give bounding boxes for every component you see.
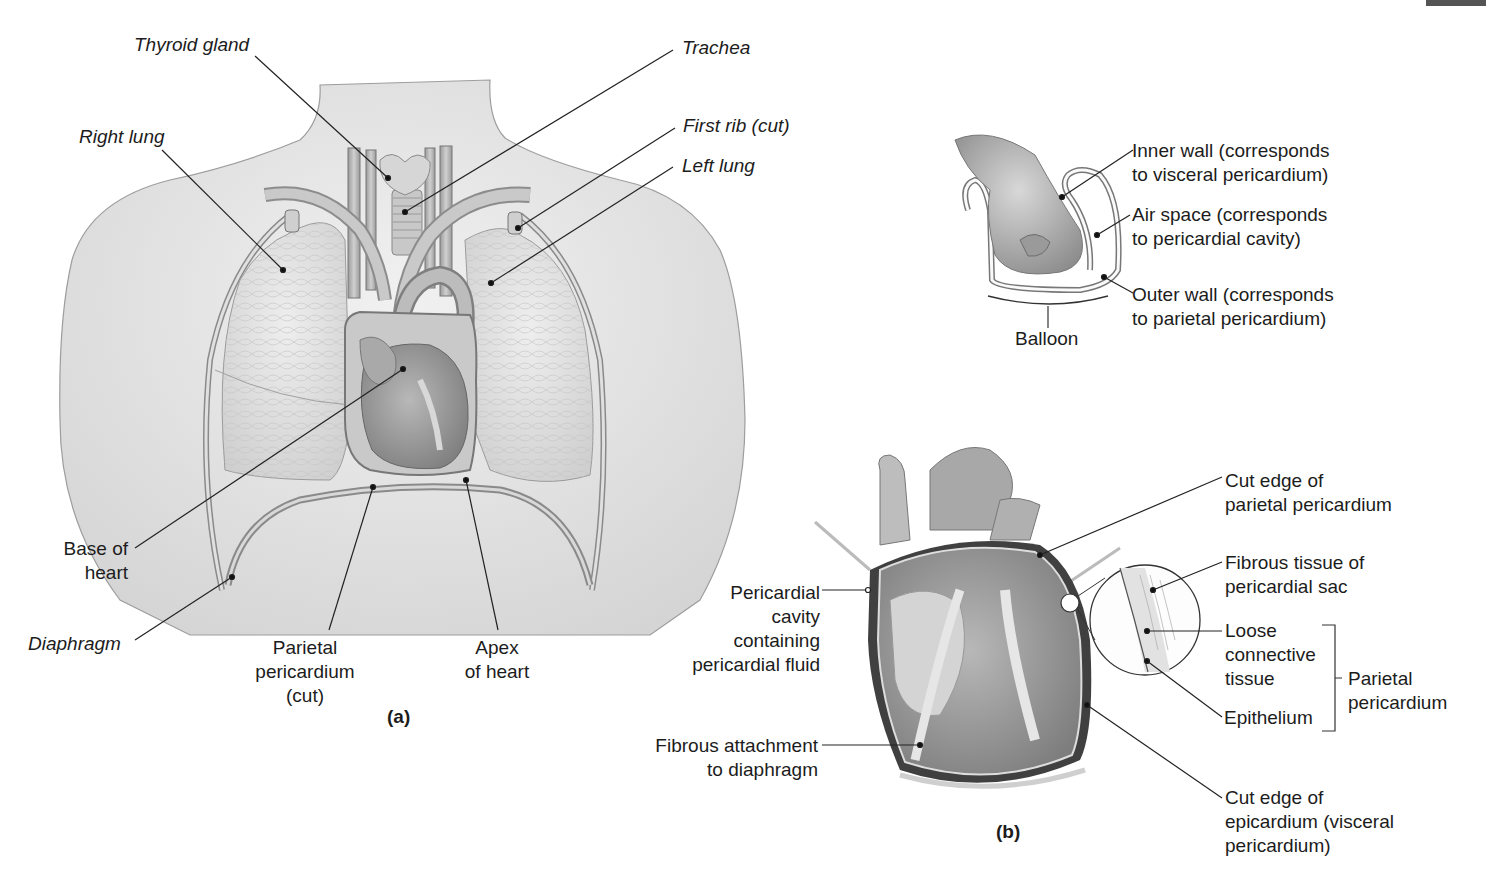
label-air-space: Air space (corresponds to pericardial ca… bbox=[1132, 203, 1327, 251]
label-diaphragm: Diaphragm bbox=[28, 632, 121, 656]
parietal-bracket bbox=[1322, 625, 1342, 731]
label-thyroid-gland: Thyroid gland bbox=[134, 33, 249, 57]
label-apex-of-heart: Apex of heart bbox=[447, 636, 547, 684]
label-outer-wall: Outer wall (corresponds to parietal peri… bbox=[1132, 283, 1334, 331]
label-epithelium: Epithelium bbox=[1224, 706, 1313, 730]
label-loose-connective-tissue: Loose connective tissue bbox=[1225, 619, 1316, 691]
label-trachea: Trachea bbox=[682, 36, 750, 60]
label-right-lung: Right lung bbox=[79, 125, 165, 149]
label-inner-wall: Inner wall (corresponds to visceral peri… bbox=[1132, 139, 1329, 187]
label-balloon: Balloon bbox=[1015, 327, 1078, 351]
label-fibrous-tissue: Fibrous tissue of pericardial sac bbox=[1225, 551, 1364, 599]
fist-balloon-illustration bbox=[955, 135, 1119, 328]
label-base-of-heart: Base of heart bbox=[40, 537, 128, 585]
label-cut-edge-epicardium: Cut edge of epicardium (visceral pericar… bbox=[1225, 786, 1394, 858]
label-left-lung: Left lung bbox=[682, 154, 755, 178]
label-pericardial-cavity: Pericardial cavity containing pericardia… bbox=[640, 581, 820, 677]
heart-panel-a bbox=[345, 312, 476, 475]
label-fibrous-attachment: Fibrous attachment to diaphragm bbox=[620, 734, 818, 782]
label-cut-edge-parietal: Cut edge of parietal pericardium bbox=[1225, 469, 1392, 517]
panel-b-tag: (b) bbox=[996, 820, 1020, 844]
label-first-rib: First rib (cut) bbox=[683, 114, 790, 138]
label-parietal-pericardium-group: Parietal pericardium bbox=[1348, 667, 1447, 715]
magnified-tissue-circle bbox=[1078, 565, 1200, 675]
panel-a-tag: (a) bbox=[387, 705, 410, 729]
heart-panel-b bbox=[815, 448, 1120, 787]
label-parietal-pericardium-cut: Parietal pericardium (cut) bbox=[240, 636, 370, 708]
